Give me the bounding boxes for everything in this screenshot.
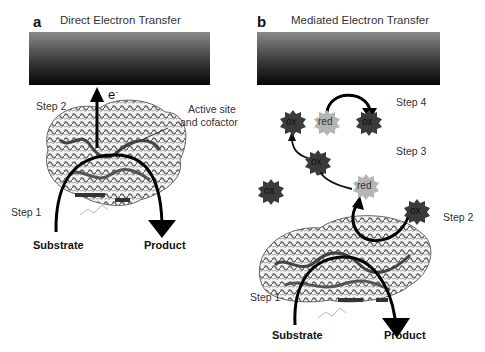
panel-a-substrate-label: Substrate (33, 239, 84, 251)
panel-b-step1-label: Step 1 (250, 291, 280, 303)
mediator-label: red (357, 180, 371, 191)
mediator-label: red (318, 116, 332, 127)
mediator-label: ox (311, 156, 322, 167)
diagram-graphics (0, 0, 485, 352)
panel-b-substrate-label: Substrate (272, 329, 323, 341)
electron-arrow-head (90, 87, 104, 102)
mediator-label: ox (286, 116, 297, 127)
active-site-label-line1: Active site (188, 103, 236, 115)
panel-a-enzyme-structure (47, 100, 186, 215)
panel-b-enzyme-structure (259, 216, 431, 318)
panel-b-step4-label: Step 4 (396, 96, 426, 108)
panel-b-step3-label: Step 3 (396, 145, 426, 157)
substrate-molecule (80, 205, 108, 215)
mediator-label: ox (362, 116, 373, 127)
panel-a-reaction-arrowhead (148, 220, 176, 238)
electron-charge: - (115, 87, 118, 96)
active-site-label-line2: and cofactor (180, 116, 238, 128)
panel-b-step2-label: Step 2 (443, 211, 473, 223)
panel-a-step1-label: Step 1 (11, 206, 41, 218)
panel-a-product-label: Product (144, 239, 186, 251)
electron-label: e- (108, 87, 118, 102)
mediator-stars (258, 110, 430, 225)
panel-a-step2-label: Step 2 (36, 100, 66, 112)
panel-b-product-label: Product (384, 329, 426, 341)
step3-arrow-lower (320, 172, 352, 189)
mediator-label: ox (264, 185, 275, 196)
mediator-label: ox (410, 205, 421, 216)
